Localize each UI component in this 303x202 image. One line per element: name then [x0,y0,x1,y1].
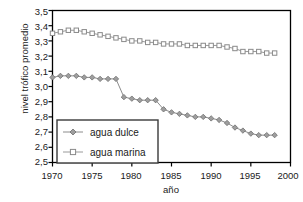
data-point-marker [121,94,126,99]
plot-area: agua dulceagua marina [0,0,303,202]
data-point-marker [265,51,269,55]
data-point-marker [89,75,94,80]
data-point-marker [241,49,245,53]
data-point-marker [138,39,142,43]
data-point-marker [74,73,79,78]
data-point-marker [50,75,55,80]
data-point-marker [106,34,110,38]
data-point-marker [240,128,245,133]
data-point-marker [74,28,78,32]
data-point-marker [169,110,174,115]
data-point-marker [58,30,62,34]
data-point-marker [113,76,118,81]
data-point-marker [224,120,229,125]
data-point-marker [153,40,157,44]
legend-marker-square [70,149,75,154]
data-point-marker [257,49,261,53]
data-point-marker [264,132,269,137]
data-point-marker [145,97,150,102]
legend-label[interactable]: agua dulce [90,127,139,138]
data-point-marker [201,43,205,47]
data-point-marker [66,28,70,32]
data-point-marker [98,33,102,37]
data-point-marker [233,46,237,50]
data-point-marker [137,97,142,102]
data-point-marker [82,75,87,80]
data-point-marker [232,125,237,130]
data-point-marker [66,73,71,78]
data-point-marker [97,76,102,81]
legend-label[interactable]: agua marina [90,147,146,158]
data-point-marker [272,51,276,55]
data-point-marker [209,43,213,47]
data-point-marker [193,43,197,47]
data-point-marker [58,73,63,78]
data-point-marker [161,42,165,46]
chart-figure: nivel trófico promedio 3,5 3,4 3,3 3,2 3… [0,0,303,202]
data-point-marker [177,111,182,116]
data-point-marker [129,96,134,101]
data-point-marker [249,49,253,53]
data-point-marker [169,42,173,46]
data-point-marker [82,30,86,34]
data-point-marker [105,76,110,81]
data-point-marker [122,37,126,41]
data-point-marker [130,39,134,43]
data-point-marker [193,114,198,119]
data-point-marker [185,43,189,47]
data-point-marker [185,113,190,118]
data-point-marker [114,36,118,40]
data-point-marker [225,45,229,49]
data-point-marker [248,131,253,136]
data-point-marker [177,42,181,46]
data-point-marker [208,116,213,121]
chart-legend[interactable]: agua dulceagua marina [57,120,158,163]
data-point-marker [216,117,221,122]
data-point-marker [256,132,261,137]
data-point-marker [217,43,221,47]
data-point-marker [272,132,277,137]
series-agua-marina [50,28,277,55]
data-point-marker [201,114,206,119]
data-point-marker [146,40,150,44]
data-point-marker [50,31,54,35]
data-point-marker [90,31,94,35]
